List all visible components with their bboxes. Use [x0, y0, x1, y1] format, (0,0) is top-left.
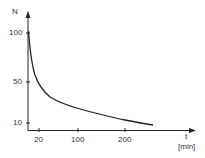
x-axis-arrow-icon	[189, 128, 196, 133]
xtick-label-20: 20	[34, 136, 43, 144]
y-axis-arrow-icon	[26, 11, 31, 18]
ytick-label-100: 100	[9, 29, 22, 37]
ytick-label-50: 50	[13, 78, 22, 86]
x-axis-unit: [min]	[178, 143, 195, 151]
x-axis-label: t	[185, 133, 187, 141]
chart-canvas	[0, 0, 205, 158]
xtick-label-200: 200	[118, 136, 131, 144]
y-axis-label: N	[12, 8, 18, 16]
xtick-label-100: 100	[71, 136, 84, 144]
ytick-label-10: 10	[13, 119, 22, 127]
decay-curve	[29, 31, 154, 125]
